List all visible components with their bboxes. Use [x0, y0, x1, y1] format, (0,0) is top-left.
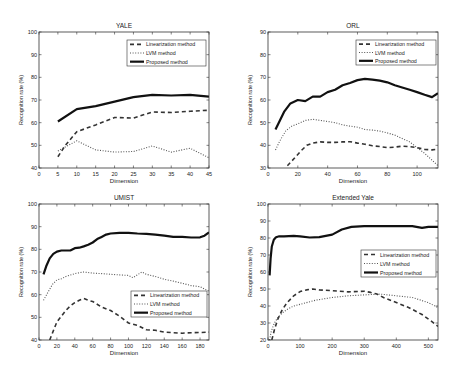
x-tick-label: 120: [142, 343, 151, 349]
x-tick-label: 500: [424, 343, 433, 349]
x-axis-label: Dimension: [110, 178, 138, 184]
x-axis-label: Dimension: [110, 350, 138, 356]
x-tick-label: 100: [124, 343, 133, 349]
x-tick-label: 140: [160, 343, 169, 349]
x-tick-label: 0: [37, 343, 40, 349]
figure-canvas: YALE051015202530354045405060708090100Dim…: [0, 0, 461, 375]
y-tick-label: 50: [260, 286, 266, 292]
legend-entry: Proposed method: [375, 58, 417, 64]
legend-entry: Proposed method: [380, 270, 422, 276]
legend-entry: Proposed method: [150, 310, 192, 316]
chart-title: YALE: [116, 22, 133, 29]
y-tick-label: 80: [31, 74, 37, 80]
series-linearization-method: [272, 289, 438, 340]
y-tick-label: 70: [260, 252, 266, 258]
x-tick-label: 80: [384, 171, 390, 177]
y-tick-label: 40: [31, 165, 37, 171]
y-tick-label: 80: [260, 235, 266, 241]
chart-panel-orl: ORL02040608010030405060708090DimensionRe…: [247, 22, 438, 184]
y-tick-label: 80: [260, 52, 266, 58]
x-axis-label: Dimension: [339, 178, 367, 184]
series-proposed-method: [58, 95, 209, 122]
chart-title: Extended Yale: [332, 194, 374, 201]
legend: Linearization methodLVM methodProposed m…: [361, 250, 436, 277]
series-proposed-method: [44, 232, 210, 274]
y-tick-label: 50: [260, 120, 266, 126]
y-tick-label: 100: [28, 201, 37, 207]
legend-entry: Linearization method: [150, 292, 199, 298]
x-tick-label: 180: [195, 343, 204, 349]
y-tick-label: 100: [28, 29, 37, 35]
legend-entry: Linearization method: [380, 252, 429, 258]
x-tick-label: 25: [130, 171, 136, 177]
x-tick-label: 40: [325, 171, 331, 177]
x-tick-label: 100: [413, 171, 422, 177]
x-tick-label: 60: [354, 171, 360, 177]
y-tick-label: 90: [260, 218, 266, 224]
plot-area: [58, 95, 209, 158]
x-tick-label: 20: [54, 343, 60, 349]
plot-area: [276, 79, 439, 166]
y-tick-label: 100: [257, 201, 266, 207]
y-tick-label: 30: [260, 165, 266, 171]
legend: Linearization methodLVM methodProposed m…: [127, 40, 206, 66]
y-tick-label: 40: [31, 337, 37, 343]
y-tick-label: 90: [31, 52, 37, 58]
y-axis-label: Recognition rate (%): [247, 75, 253, 125]
y-tick-label: 50: [31, 314, 37, 320]
y-tick-label: 60: [31, 120, 37, 126]
x-tick-label: 45: [206, 171, 212, 177]
chart-panel-yale: YALE051015202530354045405060708090100Dim…: [18, 22, 212, 184]
y-tick-label: 70: [31, 269, 37, 275]
series-linearization-method: [58, 110, 209, 157]
y-tick-label: 60: [260, 269, 266, 275]
y-tick-label: 90: [260, 29, 266, 35]
y-tick-label: 30: [260, 320, 266, 326]
x-tick-label: 300: [360, 343, 369, 349]
y-tick-label: 60: [260, 97, 266, 103]
x-tick-label: 200: [328, 343, 337, 349]
series-proposed-method: [276, 79, 439, 130]
series-lvm-method: [270, 294, 438, 340]
x-tick-label: 400: [392, 343, 401, 349]
legend-entry: LVM method: [146, 50, 176, 56]
legend-entry: Linearization method: [375, 41, 424, 47]
y-axis-label: Recognition rate (%): [18, 247, 24, 297]
legend-entry: Proposed method: [146, 59, 188, 65]
legend: Linearization methodLVM methodProposed m…: [356, 40, 436, 65]
x-tick-label: 20: [111, 171, 117, 177]
series-lvm-method: [58, 141, 209, 158]
x-tick-label: 0: [266, 171, 269, 177]
y-axis-label: Recognition rate (%): [18, 75, 24, 125]
x-tick-label: 160: [178, 343, 187, 349]
x-tick-label: 15: [93, 171, 99, 177]
x-tick-label: 10: [74, 171, 80, 177]
y-tick-label: 40: [260, 142, 266, 148]
y-axis-label: Recognition rate (%): [247, 247, 253, 297]
y-tick-label: 70: [31, 97, 37, 103]
chart-title: UMIST: [114, 194, 134, 201]
y-tick-label: 90: [31, 224, 37, 230]
x-tick-label: 5: [56, 171, 59, 177]
x-tick-label: 35: [168, 171, 174, 177]
x-tick-label: 60: [90, 343, 96, 349]
legend-entry: LVM method: [375, 50, 405, 56]
chart-panel-umist: UMIST02040608010012014016018040506070809…: [18, 194, 209, 356]
chart-panel-extended-yale: Extended Yale010020030040050020304050607…: [247, 194, 438, 356]
plot-area: [44, 232, 210, 340]
y-tick-label: 80: [31, 246, 37, 252]
y-tick-label: 70: [260, 74, 266, 80]
y-tick-label: 20: [260, 337, 266, 343]
legend: Linearization methodLVM methodProposed m…: [131, 291, 207, 317]
y-tick-label: 50: [31, 142, 37, 148]
legend-entry: LVM method: [380, 261, 410, 267]
x-tick-label: 0: [37, 171, 40, 177]
x-axis-label: Dimension: [339, 350, 367, 356]
x-tick-label: 40: [187, 171, 193, 177]
x-tick-label: 20: [295, 171, 301, 177]
x-tick-label: 80: [108, 343, 114, 349]
x-tick-label: 0: [266, 343, 269, 349]
plot-area: [270, 226, 438, 340]
x-tick-label: 30: [149, 171, 155, 177]
legend-entry: Linearization method: [146, 41, 195, 47]
